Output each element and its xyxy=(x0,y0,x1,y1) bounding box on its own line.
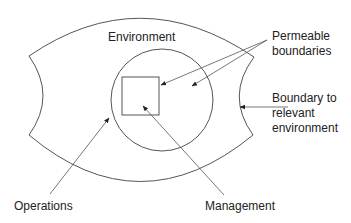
permeable-arrow-circle xyxy=(192,40,267,86)
operations-label: Operations xyxy=(14,199,73,213)
management-label: Management xyxy=(205,199,276,213)
management-square xyxy=(122,77,159,115)
permeable-label-line2: boundaries xyxy=(272,44,331,58)
boundary-label-line3: environment xyxy=(272,121,339,135)
boundary-label-line2: relevant xyxy=(272,106,315,120)
systems-diagram: Environment Permeable boundaries Boundar… xyxy=(0,0,351,223)
permeable-arrow-square xyxy=(161,40,267,85)
boundary-label-line1: Boundary to xyxy=(272,91,337,105)
permeable-label-line1: Permeable xyxy=(272,29,330,43)
environment-label: Environment xyxy=(108,30,176,44)
operations-circle xyxy=(111,49,213,151)
operations-arrow xyxy=(50,118,109,194)
